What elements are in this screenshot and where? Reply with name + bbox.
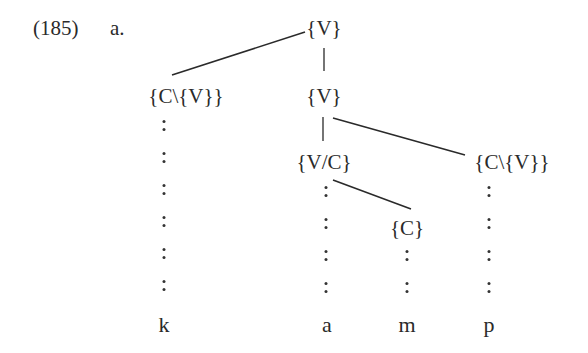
edge-root-left-dep bbox=[172, 32, 305, 75]
colon-dot bbox=[163, 120, 166, 133]
colon-dot bbox=[163, 248, 166, 261]
colon-dot bbox=[406, 250, 409, 263]
tree-edges bbox=[0, 0, 588, 353]
colon-dot bbox=[325, 186, 328, 199]
node-root-v: {V} bbox=[306, 18, 341, 39]
node-mid-v: {V} bbox=[306, 86, 341, 107]
leaf-m: m bbox=[398, 314, 415, 336]
node-left-c-dep-v: {C\{V}} bbox=[148, 86, 223, 107]
colon-dot bbox=[163, 280, 166, 293]
colon-dot bbox=[325, 282, 328, 295]
edge-mid-right-dep bbox=[333, 118, 465, 155]
edge-vc-c bbox=[333, 180, 411, 209]
leaf-p: p bbox=[484, 314, 495, 336]
node-v-slash-c: {V/C} bbox=[296, 152, 351, 173]
node-right-c-dep-v: {C\{V}} bbox=[474, 152, 549, 173]
node-c: {C} bbox=[390, 218, 424, 239]
leaf-a: a bbox=[322, 314, 332, 336]
colon-dot bbox=[163, 152, 166, 165]
colon-dot bbox=[488, 186, 491, 199]
leaf-k: k bbox=[159, 314, 170, 336]
colon-dot bbox=[163, 184, 166, 197]
colon-dot bbox=[488, 250, 491, 263]
colon-dot bbox=[406, 282, 409, 295]
colon-dot bbox=[325, 250, 328, 263]
colon-dot bbox=[325, 218, 328, 231]
colon-dot bbox=[488, 218, 491, 231]
colon-dot bbox=[488, 282, 491, 295]
colon-dot bbox=[163, 216, 166, 229]
